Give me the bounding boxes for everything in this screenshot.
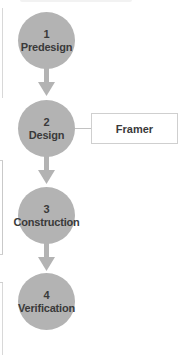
down-arrow-icon <box>38 68 55 96</box>
step-number: 2 <box>43 116 49 129</box>
edge-divider-line <box>2 8 3 98</box>
step-node-construction: 3 Construction <box>18 187 75 244</box>
step-label: Design <box>29 129 64 142</box>
edge-divider-line <box>2 282 3 355</box>
step-node-design: 2 Design <box>18 100 75 157</box>
edge-divider-line <box>2 160 3 255</box>
connector-line <box>75 128 91 129</box>
step-number: 3 <box>43 203 49 216</box>
framer-box: Framer <box>91 113 178 144</box>
edge-tick <box>0 160 3 161</box>
step-node-verification: 4 Verification <box>18 273 75 330</box>
down-arrow-icon <box>38 243 55 271</box>
edge-tick <box>0 254 3 255</box>
edge-tick <box>0 282 3 283</box>
clipped-heading <box>20 0 132 2</box>
down-arrow-icon <box>38 156 55 184</box>
step-label: Construction <box>13 216 79 229</box>
framer-label: Framer <box>116 123 153 135</box>
step-node-predesign: 1 Predesign <box>18 12 75 69</box>
step-label: Predesign <box>21 41 72 54</box>
step-number: 4 <box>43 289 49 302</box>
step-number: 1 <box>43 28 49 41</box>
step-label: Verification <box>18 302 75 315</box>
